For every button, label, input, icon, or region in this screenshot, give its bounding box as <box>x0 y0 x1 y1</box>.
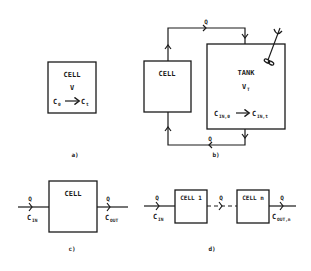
cell-box-c <box>49 181 97 232</box>
inlet-conc-label: C IN <box>153 213 164 222</box>
inlet-conc-label: C IN <box>27 214 38 223</box>
panel-b: Q Q CELL TANK V T C IN,0 C IN,t b) <box>144 18 285 158</box>
inlet-flow-label: Q <box>28 195 32 202</box>
conc-end: C <box>252 110 256 118</box>
conc-sub: IN <box>32 218 38 223</box>
caption-c: c) <box>68 245 75 252</box>
outlet-flow-label: Q <box>106 195 110 202</box>
cell-n-title: CELL n <box>242 194 264 201</box>
cell-a-title: CELL <box>64 71 81 79</box>
inlet-flow-label: Q <box>155 194 159 201</box>
tank-volume-sub: T <box>247 87 250 92</box>
conc: C <box>105 214 109 222</box>
tank-title: TANK <box>238 69 256 77</box>
conc: C <box>153 213 157 221</box>
conc-start: C <box>53 98 57 106</box>
diagram-canvas: CELL V C 0 C t a) Q Q CELL TANK V T <box>0 0 311 271</box>
outlet-flow-label: Q <box>280 194 284 201</box>
cell-box-b <box>144 61 191 112</box>
cell-c-title: CELL <box>65 190 82 198</box>
caption-d: d) <box>208 245 215 252</box>
conc-end: C <box>81 98 85 106</box>
conc-end-sub: t <box>86 102 89 107</box>
panel-c: CELL Q C IN Q C OUT c) <box>18 181 128 252</box>
cell-1-title: CELL 1 <box>180 194 202 201</box>
between-flow-label: Q <box>219 194 223 201</box>
flow-top-label: Q <box>204 18 208 25</box>
flow-bottom-label: Q <box>208 135 212 142</box>
panel-d: CELL 1 CELL n Q C IN Q Q C OUT,n d) <box>144 190 296 252</box>
conc-sub: OUT <box>110 218 118 223</box>
caption-b: b) <box>212 151 219 158</box>
conc-sub: IN <box>158 217 164 222</box>
conc-sub: OUT,n <box>277 217 291 222</box>
conc-end-sub: IN,t <box>257 114 268 119</box>
arrow-right-icon <box>219 202 222 210</box>
conc-start-sub: 0 <box>58 102 61 107</box>
panel-a: CELL V C 0 C t a) <box>48 62 96 158</box>
conc-start: C <box>214 110 218 118</box>
conc: C <box>272 213 276 221</box>
conc-start-sub: IN,0 <box>219 114 230 119</box>
cell-b-title: CELL <box>159 70 176 78</box>
outlet-conc-label: C OUT <box>105 214 118 223</box>
conc: C <box>27 214 31 222</box>
caption-a: a) <box>71 151 78 158</box>
outlet-conc-label: C OUT,n <box>272 213 291 222</box>
